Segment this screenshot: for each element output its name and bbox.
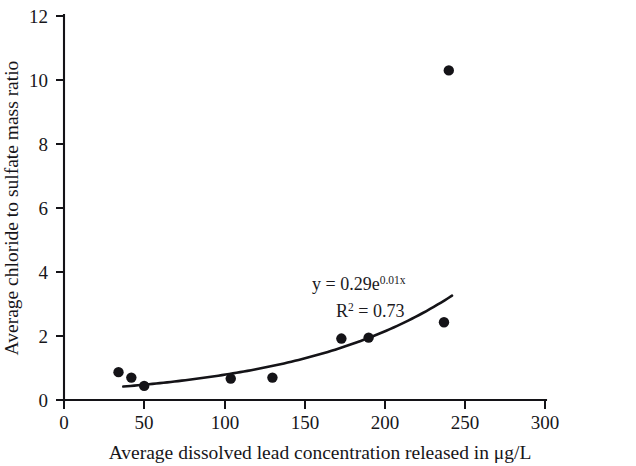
x-tick-label-200: 200 xyxy=(371,412,400,433)
scatter-plot-svg: 12 10 8 6 4 2 0 0 50 100 150 200 250 300 xyxy=(0,0,636,466)
r-squared-value: = 0.73 xyxy=(354,301,405,321)
data-point xyxy=(336,333,346,343)
x-tick-label-100: 100 xyxy=(211,412,240,433)
data-point xyxy=(363,332,373,342)
chart-figure: 12 10 8 6 4 2 0 0 50 100 150 200 250 300 xyxy=(0,0,636,466)
data-point xyxy=(444,65,454,75)
x-tick-label-300: 300 xyxy=(531,412,560,433)
r-squared-line: R2 = 0.73 xyxy=(336,301,404,321)
equation-prefix: y = 0.29e xyxy=(312,274,380,294)
y-tick-label-6: 6 xyxy=(39,198,49,219)
data-point xyxy=(126,372,136,382)
y-tick-label-0: 0 xyxy=(39,390,49,411)
data-point xyxy=(226,373,236,383)
x-tick-label-50: 50 xyxy=(135,412,154,433)
equation-exponent: 0.01x xyxy=(380,274,406,286)
x-tick-label-0: 0 xyxy=(59,412,69,433)
y-tick-label-12: 12 xyxy=(29,6,48,27)
r-squared-label: R xyxy=(336,301,348,321)
data-point xyxy=(139,381,149,391)
y-tick-label-8: 8 xyxy=(39,134,49,155)
data-point xyxy=(267,372,277,382)
y-tick-label-4: 4 xyxy=(39,262,49,283)
y-tick-label-10: 10 xyxy=(29,70,48,91)
y-tick-label-2: 2 xyxy=(39,326,49,347)
x-axis-title: Average dissolved lead concentration rel… xyxy=(109,442,532,463)
data-point xyxy=(439,317,449,327)
x-tick-label-150: 150 xyxy=(291,412,320,433)
y-axis-title: Average chloride to sulfate mass ratio xyxy=(1,61,22,356)
x-tick-label-250: 250 xyxy=(451,412,480,433)
data-point xyxy=(113,367,123,377)
plot-background xyxy=(0,0,636,466)
